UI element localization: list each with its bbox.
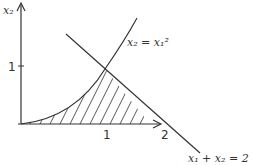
y-axis bbox=[17, 3, 25, 124]
x-axis bbox=[18, 120, 161, 128]
parabola-label: x₂ = x₁² bbox=[127, 36, 169, 49]
hatched-region bbox=[30, 64, 170, 124]
x-tick-2-label: 2 bbox=[161, 128, 169, 142]
y-axis-label: x₂ bbox=[3, 4, 14, 17]
y-tick-1-label: 1 bbox=[8, 60, 16, 74]
line-label: x₁ + x₂ = 2 bbox=[188, 152, 249, 165]
x-tick-1-label: 1 bbox=[103, 128, 111, 142]
region-diagram: x₂ 1 1 2 x₂ = x₁² x₁ + x₂ = 2 bbox=[0, 0, 253, 165]
parabola-curve bbox=[21, 18, 137, 124]
